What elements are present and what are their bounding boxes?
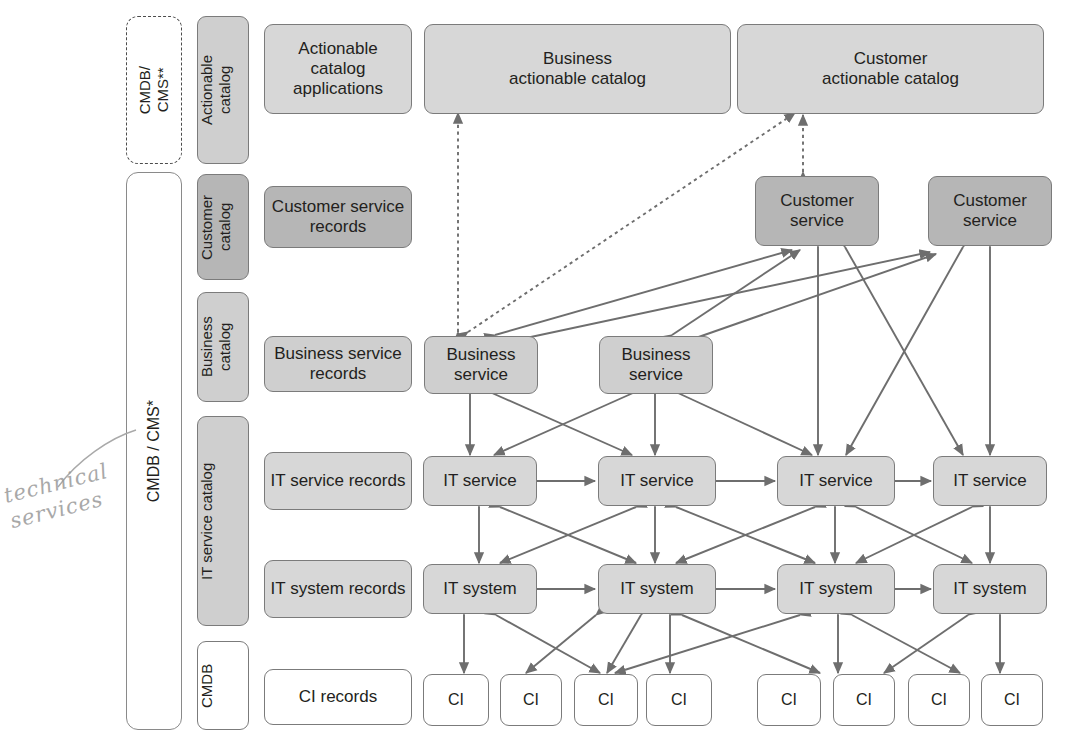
container-cmdb-cms-double-star-label: CMDB/ CMS**	[136, 66, 172, 114]
node-it-service-3-label: IT service	[778, 471, 894, 491]
record-it-system-records-label: IT system records	[265, 579, 411, 599]
container-cmdb-cms-single-star-label: CMDB / CMS*	[144, 400, 163, 502]
node-it-system-3-label: IT system	[778, 579, 894, 599]
node-business-service-2: Business service	[599, 336, 713, 394]
record-it-system-records: IT system records	[264, 560, 412, 618]
record-customer-service-records: Customer service records	[264, 186, 412, 248]
node-it-service-3: IT service	[777, 456, 895, 506]
node-customer-service-2-label: Customer service	[929, 191, 1051, 231]
strip-cmdb-label: CMDB	[198, 659, 248, 711]
strip-business-catalog-label: Business catalog	[198, 313, 248, 382]
node-it-service-4: IT service	[933, 456, 1047, 506]
node-customer-service-2: Customer service	[928, 176, 1052, 246]
node-ci-8-label: CI	[982, 691, 1042, 710]
record-business-service-records-label: Business service records	[265, 344, 411, 384]
container-cmdb-cms-double-star: CMDB/ CMS**	[126, 16, 182, 164]
record-actionable-catalog-applications-label: Actionable catalog applications	[265, 39, 411, 99]
node-it-system-3: IT system	[777, 564, 895, 614]
node-ci-1-label: CI	[424, 691, 488, 710]
record-actionable-catalog-applications: Actionable catalog applications	[264, 24, 412, 114]
node-ci-2: CI	[500, 674, 562, 726]
record-it-service-records-label: IT service records	[265, 471, 411, 491]
node-ci-2-label: CI	[501, 691, 561, 710]
node-ci-8: CI	[981, 674, 1043, 726]
node-ci-6-label: CI	[834, 691, 894, 710]
node-business-actionable-catalog: Business actionable catalog	[424, 24, 731, 114]
strip-actionable-catalog-label: Actionable catalog	[198, 51, 248, 129]
node-ci-5: CI	[757, 674, 821, 726]
node-ci-7: CI	[908, 674, 970, 726]
node-it-service-4-label: IT service	[934, 471, 1046, 491]
diagram-canvas: CMDB/ CMS** CMDB / CMS* Actionable catal…	[0, 0, 1075, 747]
record-ci-records-label: CI records	[265, 687, 411, 707]
node-ci-4: CI	[646, 674, 712, 726]
node-it-system-1: IT system	[423, 564, 537, 614]
node-it-system-2: IT system	[598, 564, 716, 614]
node-it-service-1-label: IT service	[424, 471, 536, 491]
strip-it-service-catalog: IT service catalog	[197, 416, 249, 626]
node-it-system-1-label: IT system	[424, 579, 536, 599]
node-ci-5-label: CI	[758, 691, 820, 710]
node-customer-actionable-catalog-label: Customer actionable catalog	[738, 49, 1043, 89]
node-it-system-4-label: IT system	[934, 579, 1046, 599]
node-ci-7-label: CI	[909, 691, 969, 710]
strip-customer-catalog-label: Customer catalog	[198, 190, 248, 263]
strip-it-service-catalog-label: IT service catalog	[198, 458, 248, 583]
handwritten-annotation: technical services	[1, 458, 117, 535]
record-customer-service-records-label: Customer service records	[265, 197, 411, 237]
container-cmdb-cms-single-star: CMDB / CMS*	[126, 172, 182, 730]
node-ci-1: CI	[423, 674, 489, 726]
node-it-service-2-label: IT service	[599, 471, 715, 491]
node-business-actionable-catalog-label: Business actionable catalog	[425, 49, 730, 89]
node-ci-3: CI	[574, 674, 638, 726]
node-it-service-1: IT service	[423, 456, 537, 506]
strip-business-catalog: Business catalog	[197, 292, 249, 402]
node-it-system-4: IT system	[933, 564, 1047, 614]
node-customer-service-1: Customer service	[755, 176, 879, 246]
node-business-service-1: Business service	[424, 336, 538, 394]
node-business-service-2-label: Business service	[600, 345, 712, 385]
node-customer-service-1-label: Customer service	[756, 191, 878, 231]
strip-customer-catalog: Customer catalog	[197, 174, 249, 280]
strip-cmdb: CMDB	[197, 641, 249, 730]
record-business-service-records: Business service records	[264, 336, 412, 392]
record-ci-records: CI records	[264, 669, 412, 725]
node-it-system-2-label: IT system	[599, 579, 715, 599]
node-ci-4-label: CI	[647, 691, 711, 710]
node-ci-3-label: CI	[575, 691, 637, 710]
strip-actionable-catalog: Actionable catalog	[197, 16, 249, 164]
node-it-service-2: IT service	[598, 456, 716, 506]
node-customer-actionable-catalog: Customer actionable catalog	[737, 24, 1044, 114]
node-business-service-1-label: Business service	[425, 345, 537, 385]
node-ci-6: CI	[833, 674, 895, 726]
record-it-service-records: IT service records	[264, 452, 412, 510]
